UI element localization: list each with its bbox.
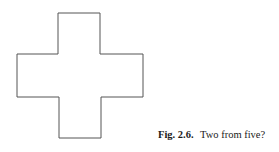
caption-text: Two from five?: [200, 129, 265, 140]
figure-caption: Fig. 2.6. Two from five?: [158, 129, 265, 140]
cross-outline: [17, 13, 143, 138]
figure-label: Fig. 2.6.: [158, 129, 194, 140]
